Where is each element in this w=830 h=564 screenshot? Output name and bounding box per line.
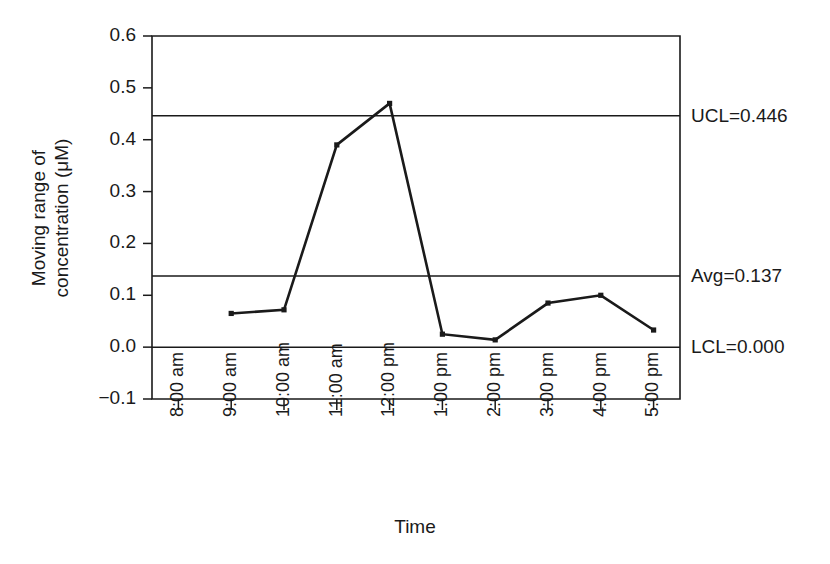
x-tick-label: 10:00 am <box>273 342 293 417</box>
x-axis-ticks <box>178 399 653 410</box>
y-tick-label: 0.0 <box>110 335 136 356</box>
control-limit-labels: UCL=0.446Avg=0.137LCL=0.000 <box>691 105 788 357</box>
y-tick-label: 0.5 <box>110 76 136 97</box>
data-point-marker <box>387 101 392 106</box>
x-tick-label: 9:00 am <box>220 352 240 417</box>
data-point-marker <box>229 311 234 316</box>
data-point-marker <box>493 337 498 342</box>
control-limit-label-lcl: LCL=0.000 <box>691 336 785 357</box>
x-axis-tick-labels: 8:00 am9:00 am10:00 am11:00 am12:00 pm1:… <box>167 342 662 417</box>
control-chart: −0.10.00.10.20.30.40.50.6 8:00 am9:00 am… <box>0 0 830 564</box>
y-tick-label: −0.1 <box>98 387 136 408</box>
data-point-marker <box>545 300 550 305</box>
y-tick-label: 0.3 <box>110 180 136 201</box>
data-point-marker <box>598 293 603 298</box>
series-polyline <box>231 103 653 339</box>
y-tick-label: 0.6 <box>110 24 136 45</box>
x-tick-label: 1:00 pm <box>431 352 451 417</box>
y-axis-tick-labels: −0.10.00.10.20.30.40.50.6 <box>98 24 136 408</box>
x-tick-label: 3:00 pm <box>537 352 557 417</box>
data-point-markers <box>229 101 657 343</box>
x-tick-label: 4:00 pm <box>590 352 610 417</box>
y-axis-title-line1: Moving range of <box>28 149 49 286</box>
control-limit-label-ucl: UCL=0.446 <box>691 105 788 126</box>
y-axis-title-line2: concentration (μM) <box>51 139 72 298</box>
data-point-marker <box>440 332 445 337</box>
y-tick-label: 0.2 <box>110 231 136 252</box>
data-point-marker <box>281 307 286 312</box>
data-point-marker <box>334 142 339 147</box>
chart-canvas: −0.10.00.10.20.30.40.50.6 8:00 am9:00 am… <box>0 0 830 564</box>
data-series <box>231 103 653 339</box>
y-tick-label: 0.4 <box>110 128 137 149</box>
x-tick-label: 11:00 am <box>326 343 346 417</box>
x-tick-label: 8:00 am <box>167 352 187 417</box>
y-axis-ticks <box>143 36 152 399</box>
y-tick-label: 0.1 <box>110 283 136 304</box>
x-axis-title: Time <box>394 516 436 537</box>
data-point-marker <box>651 327 656 332</box>
control-limit-label-avg: Avg=0.137 <box>691 265 782 286</box>
x-tick-label: 12:00 pm <box>378 342 398 417</box>
x-tick-label: 5:00 pm <box>642 352 662 417</box>
x-tick-label: 2:00 pm <box>484 352 504 417</box>
